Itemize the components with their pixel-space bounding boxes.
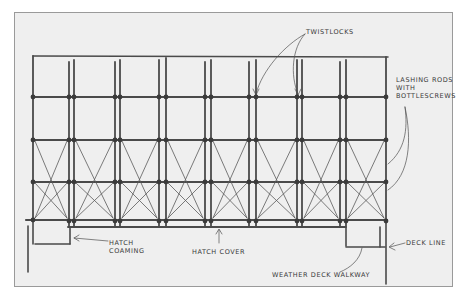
label-lashing-rods: Lashing rods with bottlescrews — [396, 76, 456, 100]
stack-top-line — [33, 56, 388, 57]
label-deck-line: Deck line — [406, 239, 446, 247]
label-lashing-rods-line2: with — [396, 84, 456, 92]
label-weather-deck-walkway: Weather deck walkway — [272, 271, 370, 279]
label-hatch-coaming-line1: Hatch — [109, 239, 145, 247]
label-hatch-cover: Hatch cover — [192, 248, 245, 256]
label-lashing-rods-line3: bottlescrews — [396, 92, 456, 100]
label-lashing-rods-line1: Lashing rods — [396, 76, 456, 84]
label-hatch-coaming: Hatch coaming — [109, 239, 145, 255]
hatch-coaming-left — [28, 222, 70, 272]
label-hatch-coaming-line2: coaming — [109, 247, 145, 255]
label-twistlocks: Twistlocks — [306, 28, 354, 36]
lashing-rods — [35, 141, 384, 218]
